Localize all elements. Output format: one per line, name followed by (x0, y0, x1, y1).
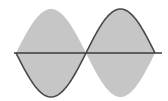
sine-wave-diagram (0, 0, 168, 101)
